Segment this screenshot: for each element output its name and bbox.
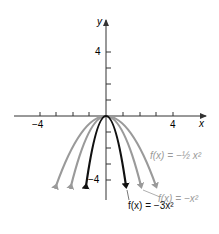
tick-y-4: 4 xyxy=(95,46,101,57)
tick-x-4: 4 xyxy=(170,119,176,130)
label-half: f(x) = −½ x² xyxy=(150,150,201,161)
pointer-three xyxy=(127,190,129,200)
tick-x-neg4: −4 xyxy=(32,119,43,130)
tick-y-neg4: −4 xyxy=(88,174,99,185)
label-three: f(x) = −3x² xyxy=(128,200,174,211)
y-axis-label: y xyxy=(97,16,102,27)
x-axis-label: x xyxy=(199,118,204,129)
